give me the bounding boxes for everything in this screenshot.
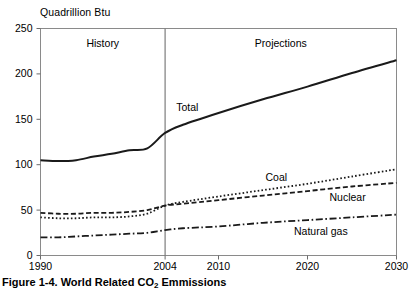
series-layer <box>41 60 397 237</box>
y-tick-label: 0 <box>3 250 33 261</box>
annotation-coal: Coal <box>266 171 288 183</box>
x-tick-label: 2020 <box>278 261 338 272</box>
y-tick-label: 100 <box>3 159 33 170</box>
annotation-nuclear: Nuclear <box>329 191 365 203</box>
x-tick-label: 1990 <box>11 261 71 272</box>
y-tick-label: 150 <box>3 114 33 125</box>
y-tick-label: 50 <box>3 205 33 216</box>
region-label-projections: Projections <box>226 37 336 49</box>
y-tick-label: 250 <box>3 23 33 34</box>
caption-suffix: Emmissions <box>158 276 226 288</box>
annotation-total: Total <box>176 101 198 113</box>
x-tick-label: 2030 <box>367 261 411 272</box>
series-line-total <box>41 60 397 161</box>
caption-prefix: Figure 1-4. World Related CO <box>2 276 154 288</box>
x-tick-label: 2004 <box>135 261 195 272</box>
figure-caption: Figure 1-4. World Related CO2 Emmissions <box>2 276 226 288</box>
x-tick-label: 2010 <box>189 261 249 272</box>
y-tick-label: 200 <box>3 68 33 79</box>
figure-container: Quadrillion Btu 050100150200250 19902004… <box>0 0 411 290</box>
annotation-natural-gas: Natural gas <box>294 225 348 237</box>
caption-subscript: 2 <box>154 281 158 290</box>
region-label-history: History <box>48 37 158 49</box>
